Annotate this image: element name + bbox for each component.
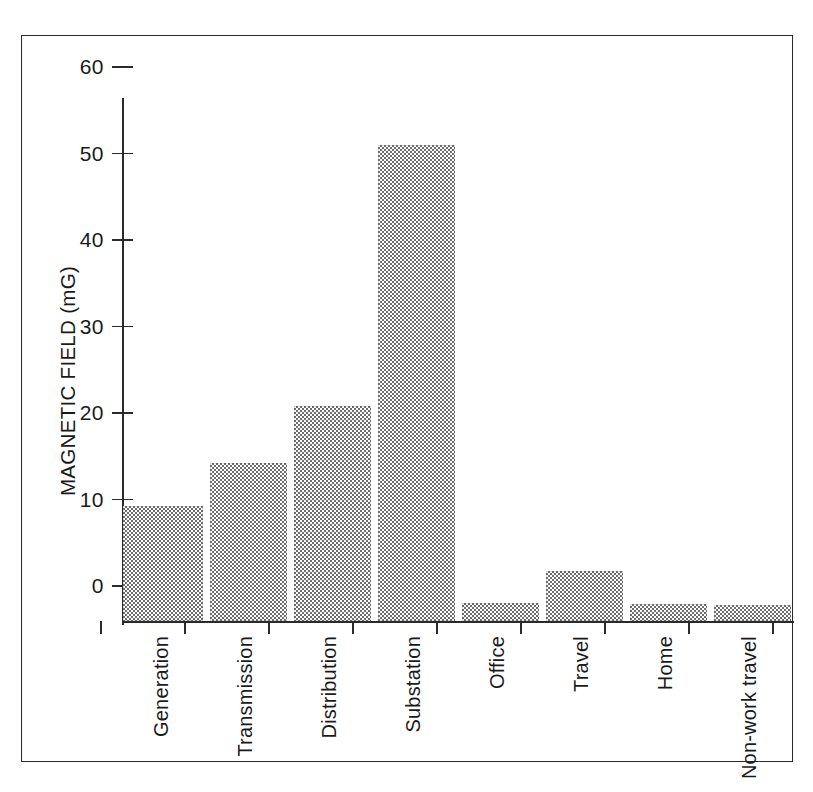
x-tick-0: [100, 621, 102, 634]
y-tick-label-60: 60: [58, 56, 104, 77]
bars-group: [122, 102, 794, 621]
x-tick-5: [520, 621, 522, 634]
y-tick-label-text: 60: [64, 56, 104, 77]
bar-travel: [546, 571, 623, 621]
y-tick-label-0: 0: [58, 575, 104, 596]
y-tick-label-20: 20: [58, 402, 104, 423]
y-tick-60: [112, 66, 133, 68]
y-tick-label-50: 50: [58, 143, 104, 164]
y-tick-label-40: 40: [58, 229, 104, 250]
y-tick-label-text: 30: [64, 316, 104, 337]
x-axis-label-home: Home: [655, 636, 675, 690]
x-axis-label-substation: Substation: [403, 636, 423, 733]
bar-transmission: [210, 463, 287, 621]
y-tick-label-text: 40: [64, 229, 104, 250]
bar-home: [630, 604, 707, 621]
bar-office: [462, 603, 539, 621]
y-tick-label-10: 10: [58, 489, 104, 510]
x-axis-line: [122, 621, 794, 623]
x-axis-label-generation: Generation: [151, 636, 171, 737]
x-tick-8: [772, 621, 774, 634]
x-axis-label-travel: Travel: [571, 636, 591, 692]
x-tick-4: [436, 621, 438, 634]
y-tick-label-text: 50: [64, 143, 104, 164]
x-axis-label-office: Office: [487, 636, 507, 689]
x-tick-7: [688, 621, 690, 634]
x-tick-3: [352, 621, 354, 634]
x-tick-1: [184, 621, 186, 634]
y-tick-label-text: 20: [64, 402, 104, 423]
bar-substation: [378, 145, 455, 621]
bar-distribution: [294, 406, 371, 621]
x-tick-6: [604, 621, 606, 634]
bar-non-work-travel: [714, 605, 791, 621]
chart-figure: MAGNETIC FIELD (mG) 0102030405060 Genera…: [0, 0, 813, 792]
y-tick-label-30: 30: [58, 316, 104, 337]
y-tick-label-text: 10: [64, 489, 104, 510]
y-tick-label-text: 0: [64, 575, 104, 596]
figure-frame: MAGNETIC FIELD (mG) 0102030405060 Genera…: [21, 35, 793, 762]
x-tick-2: [268, 621, 270, 634]
x-axis-label-transmission: Transmission: [235, 636, 255, 757]
x-axis-label-non-work-travel: Non-work travel: [739, 636, 759, 779]
y-axis-title: MAGNETIC FIELD (mG): [58, 266, 79, 496]
x-axis-label-distribution: Distribution: [319, 636, 339, 738]
bar-generation: [123, 506, 203, 621]
